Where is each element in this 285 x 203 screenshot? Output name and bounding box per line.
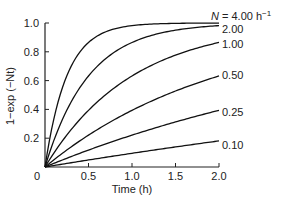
curve-n-2: [45, 26, 219, 167]
axes: 0.51.01.52.000.20.40.60.81.0: [24, 17, 227, 182]
y-tick-label: 0.4: [24, 103, 39, 115]
curve-n-1: [45, 42, 219, 167]
x-tick-label: 1.5: [168, 170, 183, 182]
series-label: 1.00: [222, 38, 243, 50]
chart: 0.51.01.52.000.20.40.60.81.0 N = 4.00 h−…: [0, 0, 285, 203]
curves: [45, 23, 219, 167]
y-tick-label: 0.6: [24, 75, 39, 87]
x-tick-label: 1.0: [124, 170, 139, 182]
series-label: 0.10: [222, 139, 243, 151]
series-labels: N = 4.00 h−12.001.000.500.250.10: [211, 9, 272, 151]
x-axis-title: Time (h): [112, 183, 153, 195]
x-tick-label: 2.0: [211, 170, 226, 182]
y-tick-label: 0.8: [24, 46, 39, 58]
curve-n-4: [45, 23, 219, 167]
origin-label: 0: [34, 170, 40, 182]
y-tick-label: 1.0: [24, 17, 39, 29]
series-label: N = 4.00 h−1: [211, 9, 272, 22]
y-tick-label: 0.2: [24, 132, 39, 144]
series-label: 0.50: [222, 69, 243, 81]
x-tick-label: 0.5: [81, 170, 96, 182]
curve-n-0-25: [45, 110, 219, 167]
series-label: 2.00: [222, 23, 243, 35]
y-axis-title: 1−exp (−Nt): [4, 67, 16, 125]
series-label: 0.25: [222, 106, 243, 118]
